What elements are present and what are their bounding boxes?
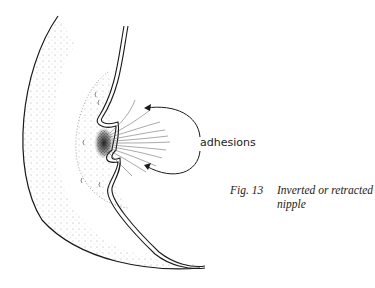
adhesions-label: adhesions xyxy=(200,136,256,149)
adhesion-arrows xyxy=(146,107,200,174)
skin-line-inner xyxy=(101,26,205,266)
caption-line1: Inverted or retracted xyxy=(277,184,373,196)
arrow-upper xyxy=(146,107,200,137)
figure-caption: Fig. 13 Inverted or retracted xyxy=(230,184,373,197)
arrowhead-lower-icon xyxy=(144,163,151,170)
caption-line2: nipple xyxy=(277,198,306,211)
figure-number: Fig. 13 xyxy=(230,184,263,196)
arrow-lower xyxy=(146,151,200,174)
figure-canvas: adhesions Fig. 13 Inverted or retracted … xyxy=(0,0,375,288)
arrowhead-upper-icon xyxy=(144,104,151,111)
breast-illustration xyxy=(0,0,375,288)
